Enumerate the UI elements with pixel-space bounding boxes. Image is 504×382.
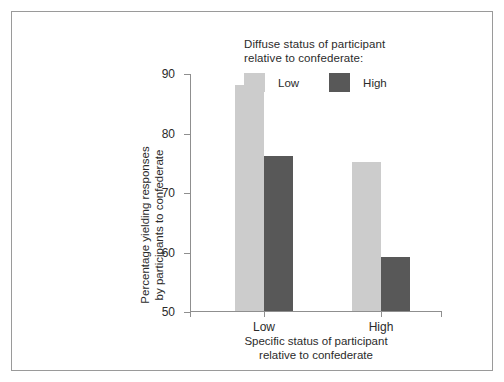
bar-high-low bbox=[352, 162, 381, 311]
y-tick-70: 70 bbox=[184, 193, 190, 194]
x-axis-line bbox=[190, 311, 442, 312]
figure-frame: Diffuse status of participant relative t… bbox=[11, 11, 493, 371]
x-axis-end-tick-0 bbox=[190, 312, 191, 317]
x-axis-end-tick-1 bbox=[441, 312, 442, 317]
x-axis-title: Specific status of participant relative … bbox=[190, 334, 442, 362]
bar-high-high bbox=[381, 257, 410, 311]
y-axis-line bbox=[190, 74, 191, 312]
legend-title: Diffuse status of participant relative t… bbox=[244, 38, 444, 65]
y-axis-title-text: Percentage yielding responses by partici… bbox=[138, 130, 166, 320]
y-tick-90: 90 bbox=[184, 74, 190, 75]
bar-low-low bbox=[235, 85, 264, 311]
y-axis-title: Percentage yielding responses by partici… bbox=[124, 0, 180, 130]
x-tick-high bbox=[381, 312, 382, 317]
chart-page: Diffuse status of participant relative t… bbox=[0, 0, 504, 382]
y-tick-60: 60 bbox=[184, 253, 190, 254]
plot-area: 5060708090 LowHigh bbox=[190, 74, 442, 312]
bar-low-high bbox=[264, 156, 293, 311]
y-tick-80: 80 bbox=[184, 134, 190, 135]
x-group-label-high: High bbox=[369, 320, 394, 334]
x-group-label-low: Low bbox=[253, 320, 275, 334]
x-tick-low bbox=[264, 312, 265, 317]
